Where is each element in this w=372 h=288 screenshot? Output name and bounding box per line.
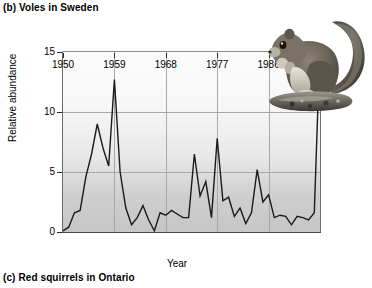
- y-tick-label: 5: [49, 167, 55, 177]
- y-tick-mark: [57, 112, 62, 113]
- page-title: (b) Voles in Sweden: [3, 2, 99, 13]
- y-tick-label: 10: [44, 107, 55, 117]
- axis-bottom: [62, 232, 321, 233]
- next-panel-caption: (c) Red squirrels in Ontario: [3, 272, 135, 283]
- y-axis-label: Relative abundance: [7, 54, 18, 142]
- x-axis-label: Year: [0, 258, 372, 269]
- y-tick-label: 15: [44, 47, 55, 57]
- y-tick-label: 0: [49, 227, 55, 237]
- y-tick-mark: [57, 52, 62, 53]
- y-tick-mark: [57, 232, 62, 233]
- squirrel-photo: [258, 2, 370, 114]
- y-tick-mark: [57, 172, 62, 173]
